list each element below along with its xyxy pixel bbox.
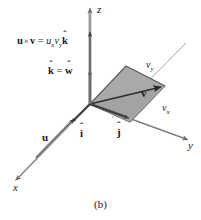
unit-vector-i-arrow — [72, 104, 91, 123]
equation-w-hat: ˆw — [65, 66, 73, 77]
formula-cross-symbol: × — [23, 36, 30, 46]
formula-u: u — [17, 35, 23, 46]
formula-equals: = — [38, 35, 44, 46]
figure-caption: (b) — [0, 198, 201, 210]
label-unit-i: ˆi — [80, 128, 83, 139]
unit-vector-equation: ˆk = ˆw — [48, 66, 73, 77]
formula-k-hat: ˆk — [62, 36, 68, 47]
formula-coef-v: vy — [54, 35, 62, 46]
equation-k-hat: ˆk — [48, 66, 54, 77]
label-component-vy: vy — [146, 60, 154, 73]
vector-cross-product-figure: z y x u×v = uxvyˆk ˆk = ˆw u ˆi ˆj v vx … — [0, 0, 201, 220]
label-vector-u: u — [42, 132, 48, 143]
label-component-vx: vx — [162, 103, 170, 116]
label-unit-j: ˆj — [117, 127, 121, 138]
axis-label-y: y — [188, 140, 193, 151]
label-vector-v: v — [141, 88, 147, 99]
formula-v: v — [30, 35, 35, 46]
diagram-canvas — [0, 0, 201, 220]
unit-j-hat-group: ˆj — [117, 127, 121, 138]
equation-equals: = — [56, 65, 62, 76]
unit-i-hat-group: ˆi — [80, 128, 83, 139]
cross-product-formula: u×v = uxvyˆk — [17, 36, 68, 49]
axis-label-z: z — [97, 4, 101, 15]
axis-label-x: x — [13, 182, 18, 193]
parallelogram-v-components — [90, 66, 165, 122]
